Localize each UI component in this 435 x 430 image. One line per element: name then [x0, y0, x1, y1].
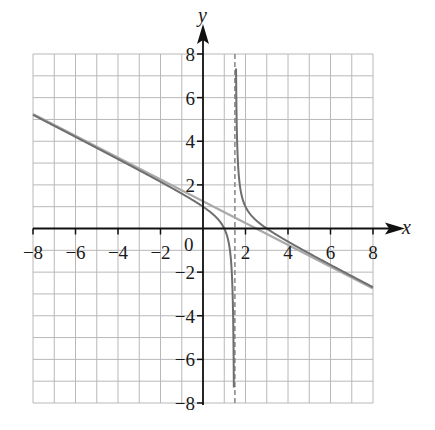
axes [33, 24, 405, 405]
y-tick-label: 8 [186, 44, 196, 65]
x-tick-label: 4 [283, 242, 293, 263]
y-tick-label: −8 [175, 393, 195, 414]
x-tick-label: −4 [108, 242, 129, 263]
x-tick-label: −2 [150, 242, 170, 263]
y-tick-label: −4 [175, 306, 196, 327]
x-tick-label: 6 [326, 242, 336, 263]
y-tick-label: −6 [175, 349, 195, 370]
origin-label: 0 [184, 234, 194, 255]
y-tick-label: 6 [186, 88, 196, 109]
x-tick-label: −8 [23, 242, 43, 263]
y-tick-label: 4 [186, 131, 196, 152]
x-axis-label: x [401, 216, 411, 238]
y-tick-label: 2 [186, 175, 196, 196]
y-tick-label: −2 [175, 262, 195, 283]
y-axis-label: y [196, 4, 207, 27]
x-tick-label: 2 [241, 242, 251, 263]
x-tick-label: −6 [65, 242, 85, 263]
function-graph: −8−6−4−224688642−2−4−6−8 x y 0 [0, 0, 435, 430]
x-tick-label: 8 [368, 242, 378, 263]
